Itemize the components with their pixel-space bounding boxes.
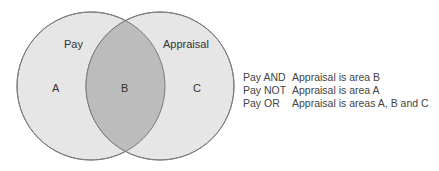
legend-desc: Appraisal is area A [292,84,380,97]
legend-desc: Appraisal is areas A, B and C [292,97,429,110]
legend-op: Pay OR [243,97,292,110]
legend-row-and: Pay AND Appraisal is area B [243,71,429,84]
pay-label: Pay [64,38,83,50]
region-b-label: B [121,82,128,94]
legend: Pay AND Appraisal is area B Pay NOT Appr… [243,71,429,110]
appraisal-label: Appraisal [163,38,209,50]
legend-desc: Appraisal is area B [292,71,380,84]
region-c-label: C [193,82,201,94]
legend-op: Pay AND [243,71,292,84]
region-a-label: A [52,82,59,94]
legend-op: Pay NOT [243,84,292,97]
legend-row-or: Pay OR Appraisal is areas A, B and C [243,97,429,110]
legend-row-not: Pay NOT Appraisal is area A [243,84,429,97]
